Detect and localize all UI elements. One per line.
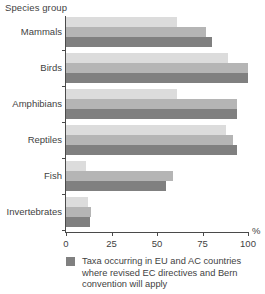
bar [66,181,166,191]
bar-group [66,17,248,47]
y-axis-title: Species group [5,2,67,13]
y-axis-tick [62,230,66,231]
bar-group [66,53,248,83]
legend-label-taxa: Taxa occurring in EU and AC countries wh… [82,256,262,291]
category-label-amphibians: Amphibians [0,98,62,109]
x-axis-tick [66,232,67,236]
bar [66,171,173,181]
legend-swatch-taxa [66,257,75,266]
category-label-reptiles: Reptiles [0,134,62,145]
plot-area: % 0255075100 [66,16,248,232]
bar [66,99,237,109]
x-axis-tick-label: 100 [240,238,256,249]
bar-group [66,89,248,119]
bar [66,109,237,119]
bar [66,89,177,99]
bar [66,125,226,135]
bar [66,27,206,37]
y-axis-tick [62,194,66,195]
y-axis-tick [62,86,66,87]
bar [66,207,91,217]
category-label-column: MammalsBirdsAmphibiansReptilesFishInvert… [0,16,62,232]
bar-group [66,197,248,227]
x-axis-tick [248,232,249,236]
bar [66,63,248,73]
category-label-fish: Fish [0,170,62,181]
x-axis-tick-label: 50 [152,238,163,249]
bar [66,37,212,47]
bar-group [66,161,248,191]
y-axis-tick [62,158,66,159]
bar [66,135,233,145]
bar [66,17,177,27]
bar [66,145,237,155]
bar [66,161,86,171]
category-label-invertebrates: Invertebrates [0,206,62,217]
x-axis-tick-label: 25 [106,238,117,249]
bar [66,73,248,83]
category-label-mammals: Mammals [0,26,62,37]
x-axis-tick [157,232,158,236]
bar-chart: Species group MammalsBirdsAmphibiansRept… [0,0,265,294]
legend: Taxa occurring in EU and AC countries wh… [66,256,262,291]
x-axis-tick [203,232,204,236]
y-axis-tick [62,50,66,51]
x-axis-tick-label: 75 [197,238,208,249]
y-axis-tick [62,122,66,123]
bar-group [66,125,248,155]
bar [66,217,90,227]
x-axis-tick-label: 0 [63,238,68,249]
bar [66,197,88,207]
x-axis-tick [112,232,113,236]
bar [66,53,228,63]
x-axis-unit-label: % [252,225,260,236]
category-label-birds: Birds [0,62,62,73]
